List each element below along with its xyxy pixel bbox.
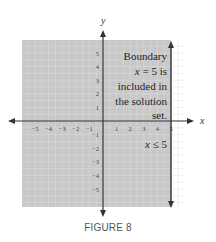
y-axis-label: y [100, 15, 106, 26]
inequality-label: x ≤ 5 [144, 138, 167, 150]
y-tick-label: −4 [92, 172, 100, 179]
y-tick-label: −1 [92, 131, 99, 138]
y-tick-label: 1 [96, 104, 99, 111]
annotation-line: included in [118, 80, 168, 92]
x-tick-label: 2 [129, 125, 132, 132]
annotation-line: set. [152, 109, 167, 121]
x-tick-label: −5 [32, 125, 39, 132]
x-tick-label: −4 [45, 125, 53, 132]
y-tick-label: 3 [96, 77, 99, 84]
y-tick-label: −2 [92, 145, 99, 152]
x-tick-label: 1 [115, 125, 118, 132]
annotation-line: x = 5 is [134, 65, 167, 77]
x-axis-label: x [199, 115, 205, 126]
y-tick-label: −3 [92, 158, 99, 165]
y-axis-up-arrow-icon [100, 30, 106, 37]
y-tick-label: 5 [96, 50, 99, 57]
x-tick-label: −3 [59, 125, 66, 132]
y-axis-down-arrow-icon [100, 210, 106, 217]
x-tick-label: −2 [72, 125, 79, 132]
annotation-line: the solution [115, 95, 167, 107]
x-tick-label: 3 [142, 125, 145, 132]
coordinate-plane-figure: xy−5−4−3−2−11234554321−1−2−3−4−5Boundary… [0, 0, 216, 242]
x-axis-left-arrow-icon [8, 118, 15, 124]
x-axis-right-arrow-icon [187, 118, 194, 124]
annotation-line: Boundary [124, 50, 168, 62]
y-tick-label: 2 [96, 90, 99, 97]
y-tick-label: −5 [92, 186, 99, 193]
figure-caption: FIGURE 8 [0, 222, 216, 233]
inequality-graph: xy−5−4−3−2−11234554321−1−2−3−4−5Boundary… [0, 0, 216, 220]
